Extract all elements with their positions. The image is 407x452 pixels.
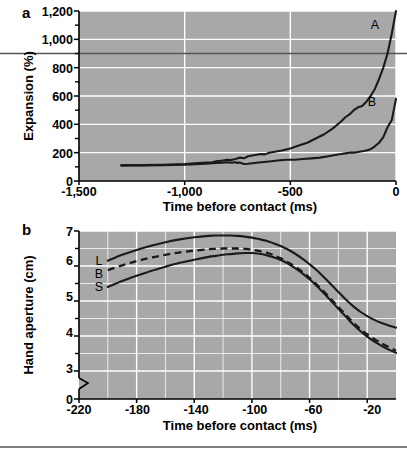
panel-b-ytick-7: 7 — [66, 225, 73, 239]
panel-a-xtick-1000: -1,000 — [167, 185, 202, 199]
panel-b-label: b — [22, 221, 31, 238]
panel-b-ytick-3: 3 — [66, 362, 73, 376]
panel-b-ytick-4: 4 — [66, 326, 73, 340]
panel-a-ytick-400: 400 — [52, 118, 73, 132]
panel-a-curve-label-B: B — [368, 95, 376, 109]
panel-b-series-label-L: L — [96, 254, 103, 268]
panel-a-curve-label-A: A — [371, 18, 380, 32]
panel-b-plot-area — [79, 231, 396, 399]
panel-b-xtick-140: -140 — [184, 403, 209, 417]
panel-a-xtick-1500: -1,500 — [61, 185, 96, 199]
panel-b-xtick-20: -20 — [363, 403, 381, 417]
panel-a-ytick-1000: 1,000 — [42, 33, 73, 47]
panel-a-ytick-1200: 1,200 — [42, 5, 73, 19]
figure-container: a 0 200 400 600 800 1,000 1,200 -1,500 -… — [0, 0, 407, 452]
panel-a-x-axis-title: Time before contact (ms) — [163, 199, 317, 214]
panel-a-xtick-0: 0 — [393, 185, 400, 199]
panel-a-xtick-500: -500 — [278, 185, 303, 199]
panel-a-label: a — [22, 4, 31, 21]
panel-b-x-axis-title: Time before contact (ms) — [163, 418, 317, 433]
panel-b-xtick-100: -100 — [242, 403, 267, 417]
figure-svg: a 0 200 400 600 800 1,000 1,200 -1,500 -… — [0, 0, 407, 452]
panel-a-ytick-200: 200 — [52, 147, 73, 161]
panel-a-ytick-600: 600 — [52, 90, 73, 104]
panel-b-xtick-180: -180 — [125, 403, 150, 417]
panel-b-xtick-220: -220 — [66, 403, 91, 417]
panel-b-ytick-6: 6 — [66, 254, 73, 268]
panel-b-series-label-S: S — [95, 280, 103, 294]
panel-b-ytick-5: 5 — [66, 290, 73, 304]
panel-b-series-label-B: B — [95, 267, 103, 281]
panel-b-y-axis-title: Hand aperture (cm) — [21, 255, 36, 374]
panel-a-y-axis-title: Expansion (%) — [21, 51, 36, 141]
panel-b-xtick-60: -60 — [304, 403, 322, 417]
panel-a-ytick-800: 800 — [52, 62, 73, 76]
